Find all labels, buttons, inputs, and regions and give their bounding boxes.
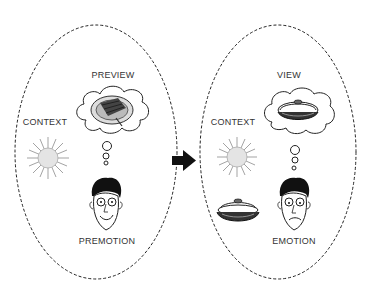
sun-icon — [217, 137, 257, 177]
preview-label: PREVIEW — [92, 70, 135, 80]
sun-icon — [27, 137, 69, 179]
thought-bubble-large — [291, 146, 300, 155]
thought-bubble-small — [104, 161, 108, 165]
thought-bubble-small — [292, 166, 296, 170]
context-label-left: CONTEXT — [23, 117, 67, 127]
emotion-label: EMOTION — [272, 236, 315, 246]
thought-bubble-medium — [103, 153, 109, 159]
diagram-canvas — [0, 0, 367, 294]
context-label-right: CONTEXT — [211, 117, 255, 127]
premotion-label: PREMOTION — [79, 236, 135, 246]
person-face-happy — [90, 178, 122, 230]
arrow-right-icon — [172, 150, 196, 171]
thought-bubble-medium — [292, 157, 298, 163]
covered-dish-icon — [217, 199, 259, 221]
view-label: VIEW — [277, 70, 301, 80]
thought-bubble-large — [103, 142, 112, 151]
person-face-worried — [278, 178, 310, 230]
